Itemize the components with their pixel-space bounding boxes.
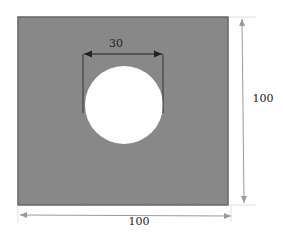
width-dimension-arrow bbox=[20, 215, 231, 216]
plate-with-hole-diagram: 30 100 100 bbox=[0, 0, 283, 240]
height-dimension-arrow bbox=[242, 19, 244, 203]
height-label: 100 bbox=[253, 92, 274, 105]
circular-hole bbox=[85, 66, 163, 144]
width-label: 100 bbox=[129, 215, 150, 228]
hole-diameter-label: 30 bbox=[109, 37, 123, 50]
